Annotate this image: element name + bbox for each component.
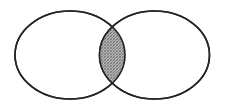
- venn-diagram-canvas: [0, 0, 225, 108]
- venn-diagram-figure: Two-set Venn diagram with shaded interse…: [0, 0, 225, 108]
